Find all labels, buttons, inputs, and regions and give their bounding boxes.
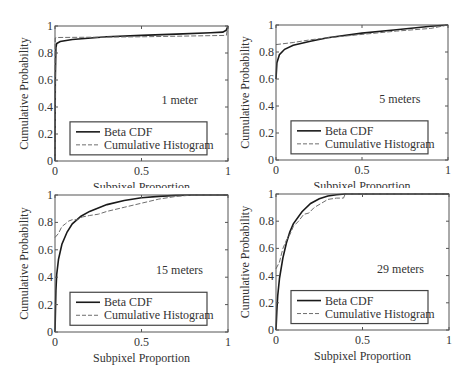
cumulative-histogram-line: [276, 194, 449, 269]
x-tick-label: 1: [225, 335, 231, 349]
y-tick-label: 0.8: [38, 46, 53, 60]
y-tick-label: 0.4: [38, 270, 53, 284]
y-tick-label: 0.6: [259, 72, 274, 86]
plot-svg: 00.20.40.60.8100.51Subpixel ProportionCu…: [0, 0, 237, 188]
y-tick-label: 0.4: [259, 99, 274, 113]
y-tick-label: 0.8: [259, 214, 274, 228]
y-tick-label: 1: [47, 188, 53, 202]
y-tick-label: 0.2: [38, 127, 53, 141]
x-tick-label: 1: [446, 333, 452, 347]
y-tick-label: 0.6: [259, 241, 274, 255]
legend-label: Cumulative Histogram: [104, 308, 214, 322]
y-axis-label: Cumulative Probability: [17, 37, 31, 149]
legend-label: Beta CDF: [104, 295, 153, 309]
distance-annotation: 5 meters: [379, 92, 420, 106]
beta-cdf-line: [276, 25, 448, 79]
y-axis-label: Cumulative Probability: [17, 207, 31, 319]
distance-annotation: 29 meters: [377, 262, 424, 276]
x-tick-label: 0: [273, 333, 279, 347]
y-tick-label: 0.2: [259, 296, 274, 310]
y-axis-label: Cumulative Probability: [238, 36, 252, 148]
x-tick-label: 0.5: [134, 164, 149, 178]
y-tick-label: 0.6: [38, 243, 53, 257]
y-tick-label: 0.2: [38, 298, 53, 312]
x-tick-label: 0: [52, 335, 58, 349]
x-tick-label: 1: [225, 164, 231, 178]
x-axis-label: Subpixel Proportion: [314, 349, 411, 363]
x-tick-label: 0.5: [134, 335, 149, 349]
x-tick-label: 0.5: [355, 163, 370, 177]
x-tick-label: 1: [445, 163, 451, 177]
y-tick-label: 0.8: [259, 45, 274, 59]
chart-15-meters: 00.20.40.60.8100.51Subpixel ProportionCu…: [0, 188, 237, 377]
plot-svg: 00.20.40.60.8100.51Subpixel ProportionCu…: [0, 188, 237, 377]
x-tick-label: 0: [273, 163, 279, 177]
y-tick-label: 0.4: [259, 269, 274, 283]
y-tick-label: 1: [268, 18, 274, 32]
chart-29-meters: 00.20.40.60.8100.51Subpixel ProportionCu…: [237, 188, 474, 377]
x-tick-label: 0: [52, 164, 58, 178]
legend-label: Cumulative Histogram: [325, 137, 435, 151]
legend-label: Beta CDF: [325, 124, 374, 138]
distance-annotation: 15 meters: [156, 263, 203, 277]
chart-5-meters: 00.20.40.60.8100.51Subpixel ProportionCu…: [237, 0, 474, 188]
legend-label: Beta CDF: [325, 294, 374, 308]
x-axis-label: Subpixel Proportion: [93, 351, 190, 365]
plot-svg: 00.20.40.60.8100.51Subpixel ProportionCu…: [237, 0, 474, 188]
y-tick-label: 0.8: [38, 215, 53, 229]
distance-annotation: 1 meter: [161, 93, 197, 107]
legend-label: Beta CDF: [104, 125, 153, 139]
y-tick-label: 0.6: [38, 73, 53, 87]
legend-label: Cumulative Histogram: [325, 307, 435, 321]
x-axis-label: Subpixel Proportion: [93, 180, 190, 188]
y-axis-label: Cumulative Probability: [238, 206, 252, 318]
legend-label: Cumulative Histogram: [104, 138, 214, 152]
y-tick-label: 0.4: [38, 100, 53, 114]
y-tick-label: 1: [268, 188, 274, 201]
x-tick-label: 0.5: [355, 333, 370, 347]
y-tick-label: 1: [47, 19, 53, 33]
plot-svg: 00.20.40.60.8100.51Subpixel ProportionCu…: [237, 188, 474, 377]
y-tick-label: 0.2: [259, 126, 274, 140]
x-axis-label: Subpixel Proportion: [313, 179, 410, 188]
chart-1-meter: 00.20.40.60.8100.51Subpixel ProportionCu…: [0, 0, 237, 188]
